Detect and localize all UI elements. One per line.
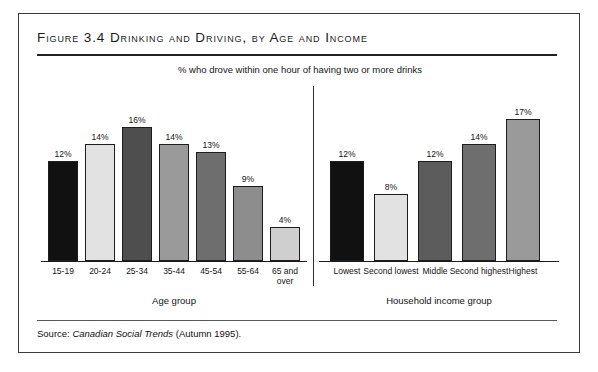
panel-age-group: 12% 15-19 14% 20-24 16% 25-34 14% 35-44 (41, 84, 307, 314)
bar-value-age-35-44: 14% (156, 132, 192, 142)
source-publication: Canadian Social Trends (72, 328, 173, 339)
bar-label-age-65-over: 65 and over (263, 266, 307, 286)
figure-title: Figure 3.4 Drinking and Driving, by Age … (37, 30, 561, 45)
bar-income-lowest[interactable] (330, 161, 364, 261)
title-divider (37, 54, 557, 56)
bar-age-15-19[interactable] (48, 161, 78, 261)
bar-age-45-54[interactable] (196, 152, 226, 261)
bar-age-65-over[interactable] (270, 227, 300, 261)
axis-title-age: Age group (41, 295, 307, 306)
bar-value-age-55-64: 9% (230, 174, 266, 184)
bar-value-income-middle: 12% (415, 149, 455, 159)
source-suffix: (Autumn 1995). (176, 328, 241, 339)
source-note: Source: Canadian Social Trends (Autumn 1… (37, 328, 241, 339)
source-divider (37, 320, 557, 321)
chart-plot-area: 12% 15-19 14% 20-24 16% 25-34 14% 35-44 (41, 84, 559, 314)
bars-age: 12% 15-19 14% 20-24 16% 25-34 14% 35-44 (41, 111, 307, 261)
bar-value-age-45-54: 13% (193, 140, 229, 150)
bar-income-second-highest[interactable] (462, 144, 496, 261)
bar-value-age-65-over: 4% (267, 215, 303, 225)
bar-value-income-second-lowest: 8% (371, 182, 411, 192)
bar-value-income-second-highest: 14% (459, 132, 499, 142)
axis-line-age (41, 261, 307, 262)
bar-age-20-24[interactable] (85, 144, 115, 261)
bar-value-age-15-19: 12% (45, 149, 81, 159)
axis-title-income: Household income group (319, 295, 559, 306)
bar-value-income-lowest: 12% (327, 149, 367, 159)
bar-income-middle[interactable] (418, 161, 452, 261)
bar-value-income-highest: 17% (503, 107, 543, 117)
source-prefix: Source: (37, 328, 70, 339)
bar-value-age-25-34: 16% (119, 115, 155, 125)
bar-income-highest[interactable] (506, 119, 540, 261)
bar-age-35-44[interactable] (159, 144, 189, 261)
bar-income-second-lowest[interactable] (374, 194, 408, 261)
figure-frame: Figure 3.4 Drinking and Driving, by Age … (18, 13, 580, 353)
chart-subtitle: % who drove within one hour of having tw… (19, 64, 581, 75)
bar-age-55-64[interactable] (233, 186, 263, 261)
axis-line-income (319, 261, 559, 262)
panel-divider (313, 86, 314, 286)
bar-label-income-highest: Highest (491, 266, 555, 276)
panel-income-group: 12% Lowest 8% Second lowest 12% Middle 1… (319, 84, 559, 314)
bars-income: 12% Lowest 8% Second lowest 12% Middle 1… (319, 111, 559, 261)
bar-age-25-34[interactable] (122, 127, 152, 261)
bar-value-age-20-24: 14% (82, 132, 118, 142)
